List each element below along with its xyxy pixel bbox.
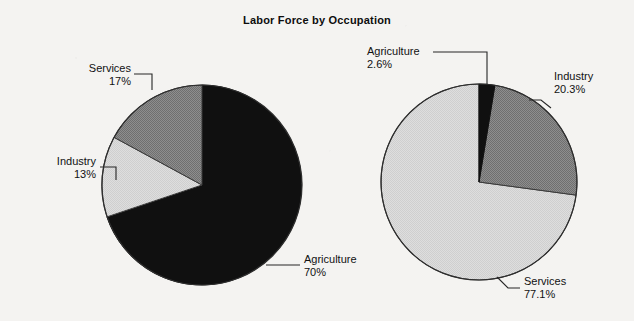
- right-label-services: Services 77.1%: [524, 275, 566, 301]
- right-label-industry-name: Industry: [554, 70, 593, 82]
- left-leader-services: [134, 74, 152, 90]
- left-label-industry-pct: 13%: [20, 168, 96, 181]
- right-leader-agriculture: [433, 52, 487, 85]
- right-label-industry: Industry 20.3%: [554, 70, 593, 96]
- left-label-agriculture-name: Agriculture: [304, 253, 357, 265]
- left-label-services-name: Services: [89, 62, 131, 74]
- right-label-services-pct: 77.1%: [524, 288, 566, 301]
- chart-page: Labor Force by Occupation: [0, 0, 634, 321]
- right-label-agriculture-pct: 2.6%: [367, 58, 420, 71]
- right-leader-services: [497, 277, 520, 288]
- left-label-agriculture: Agriculture 70%: [304, 253, 357, 279]
- left-label-agriculture-pct: 70%: [304, 266, 357, 279]
- left-label-industry-name: Industry: [57, 155, 96, 167]
- right-label-agriculture: Agriculture 2.6%: [367, 45, 420, 71]
- left-label-industry: Industry 13%: [20, 155, 96, 181]
- right-label-services-name: Services: [524, 275, 566, 287]
- left-label-services: Services 17%: [55, 62, 131, 88]
- right-label-agriculture-name: Agriculture: [367, 45, 420, 57]
- right-slice-industry: [479, 85, 577, 195]
- left-label-services-pct: 17%: [55, 75, 131, 88]
- right-label-industry-pct: 20.3%: [554, 83, 593, 96]
